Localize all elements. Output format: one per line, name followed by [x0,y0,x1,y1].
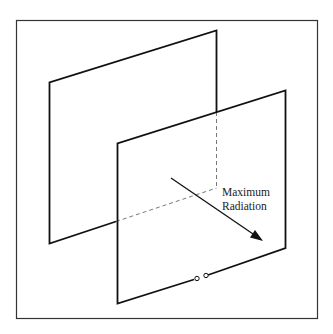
label-radiation: Radiation [222,200,267,212]
label-maximum: Maximum [222,186,270,198]
back-panel [50,31,217,244]
diagram-canvas: Maximum Radiation [0,0,333,334]
diagram-frame [17,21,318,319]
feed-terminal-right [204,273,208,277]
feed-terminal-left [195,276,199,280]
